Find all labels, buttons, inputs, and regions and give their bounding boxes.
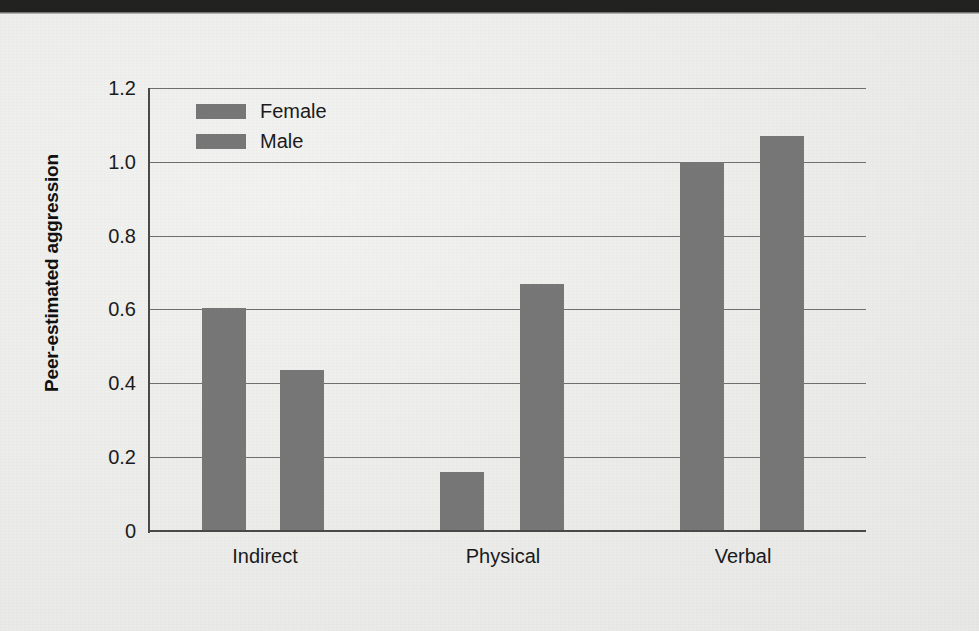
legend-label-female: Female — [260, 101, 327, 121]
gridline-0-2 — [148, 457, 866, 458]
bar-verbal-female[interactable] — [680, 162, 724, 531]
ytick-0-6: 0.6 — [90, 299, 136, 319]
ytick-1-0: 1.0 — [90, 152, 136, 172]
gridline-1-0 — [148, 162, 866, 163]
xtick-label-indirect: Indirect — [175, 545, 355, 568]
bar-verbal-male[interactable] — [760, 136, 804, 531]
gridline-0-8 — [148, 236, 866, 237]
xtick-label-physical: Physical — [413, 545, 593, 568]
ytick-0: 0 — [90, 521, 136, 541]
legend-label-male: Male — [260, 131, 303, 151]
y-axis-title: Peer-estimated aggression — [41, 113, 63, 433]
y-axis-line — [148, 88, 150, 533]
ytick-0-2: 0.2 — [90, 447, 136, 467]
ytick-0-4: 0.4 — [90, 373, 136, 393]
xtick-label-verbal: Verbal — [653, 545, 833, 568]
chart-legend: Female Male — [196, 96, 436, 156]
bar-indirect-female[interactable] — [202, 308, 246, 531]
legend-swatch-male — [196, 134, 246, 149]
gridline-1-2 — [148, 88, 866, 89]
gridline-0-6 — [148, 309, 866, 310]
bar-indirect-male[interactable] — [280, 370, 324, 531]
ytick-1-2: 1.2 — [90, 78, 136, 98]
gridline-0-4 — [148, 383, 866, 384]
bar-physical-female[interactable] — [440, 472, 484, 531]
x-axis-line — [148, 530, 866, 532]
bar-chart: Female Male 1.2 1.0 0.8 0.6 0.4 0.2 0 Pe… — [0, 0, 979, 631]
ytick-0-8: 0.8 — [90, 226, 136, 246]
plot-area: Female Male — [148, 88, 866, 531]
bar-physical-male[interactable] — [520, 284, 564, 531]
figure-page: Female Male 1.2 1.0 0.8 0.6 0.4 0.2 0 Pe… — [0, 0, 979, 631]
legend-swatch-female — [196, 104, 246, 119]
legend-item-female[interactable]: Female — [196, 96, 436, 126]
y-axis-tick-labels: 1.2 1.0 0.8 0.6 0.4 0.2 0 — [84, 88, 136, 531]
legend-item-male[interactable]: Male — [196, 126, 436, 156]
